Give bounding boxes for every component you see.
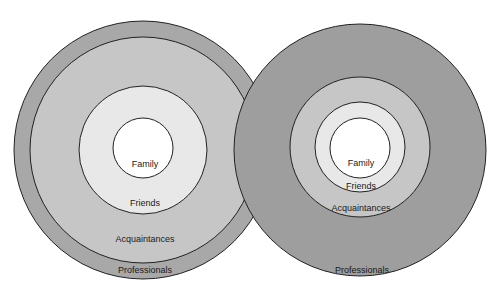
left-acquaintances-label: Acquaintances — [115, 234, 175, 244]
right-family-label: Family — [348, 158, 375, 168]
social-circles-diagram: Family Friends Acquaintances Professiona… — [0, 0, 500, 292]
left-family-label: Family — [132, 159, 159, 169]
right-professionals-label: Professionals — [335, 265, 390, 275]
right-family-circle — [330, 118, 390, 178]
left-professionals-label: Professionals — [118, 265, 173, 275]
right-friends-label: Friends — [346, 181, 377, 191]
right-acquaintances-label: Acquaintances — [331, 203, 391, 213]
left-friends-label: Friends — [130, 198, 161, 208]
right-concentric-diagram — [234, 24, 486, 276]
